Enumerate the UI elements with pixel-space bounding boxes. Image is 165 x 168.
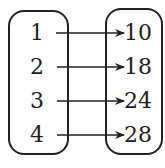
arrows [0, 0, 165, 168]
